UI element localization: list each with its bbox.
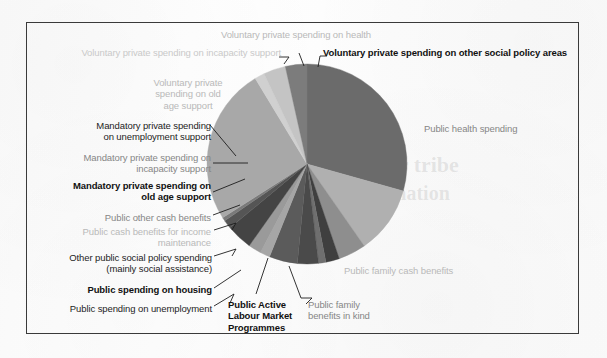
pie-chart: Voluntary private spending on healthVolu… [27, 23, 578, 333]
pie-label-public-health-spending: Public health spending [424, 123, 574, 134]
pie-label-public-family-cash-benefits: Public family cash benefits [344, 265, 504, 276]
pie-label-voluntary-private-incapacity: Voluntary private spending on incapacity… [37, 47, 281, 58]
pie-label-public-other-cash-benefits: Public other cash benefits [55, 212, 211, 223]
pie-label-public-active-labour-market: Public Active Labour Market Programmes [228, 299, 318, 333]
pie-label-mandatory-private-incapacity: Mandatory private spending on incapacity… [39, 152, 211, 175]
pie-label-public-spending-housing: Public spending on housing [55, 284, 212, 295]
leader-other-public-social [214, 249, 236, 256]
figure-page: lower tribe nomination Voluntary private… [0, 0, 607, 358]
pie-label-voluntary-private-old-age: Voluntary private spending on old age su… [138, 77, 238, 111]
pie-label-mandatory-private-unemployment: Mandatory private spending on unemployme… [49, 120, 211, 143]
figure-border: Voluntary private spending on healthVolu… [26, 22, 579, 334]
pie-label-public-family-benefits-in-kind: Public family benefits in kind [308, 299, 400, 322]
leader-family-kind-stem [289, 266, 301, 298]
pie-label-other-public-social-policy: Other public social policy spending (mai… [32, 252, 212, 275]
pie-label-public-spending-unemployment: Public spending on unemployment [35, 303, 212, 314]
pie-label-voluntary-private-other-policy: Voluntary private spending on other soci… [323, 47, 585, 58]
pie-label-voluntary-private-health: Voluntary private spending on health [201, 29, 391, 40]
pie-label-public-cash-income-maintenance: Public cash benefits for income maintena… [39, 226, 211, 249]
leader-public-almp [256, 258, 268, 294]
leader-public-housing [214, 270, 241, 288]
pie-label-mandatory-private-old-age: Mandatory private spending on old age su… [39, 180, 211, 203]
